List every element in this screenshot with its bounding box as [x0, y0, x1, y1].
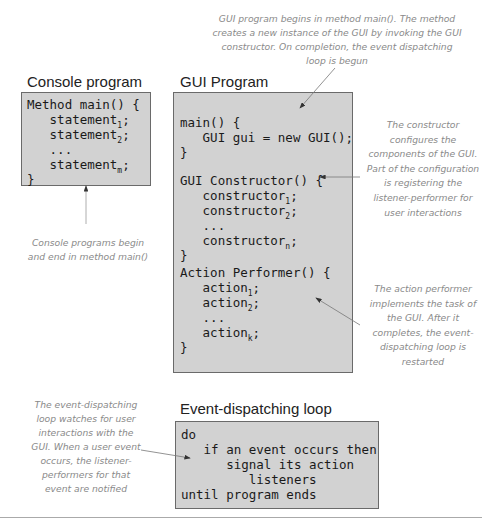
- event-loop-box: do if an event occurs then signal its ac…: [175, 421, 379, 509]
- console-program-title: Console program: [27, 73, 142, 90]
- code-line: constructor2;: [180, 203, 323, 218]
- code-line: statementm;: [27, 157, 140, 172]
- gui-main-code: main() { GUI gui = new GUI();}: [180, 115, 353, 160]
- bottom-divider: [0, 517, 482, 518]
- gui-performer-code: Action Performer() { action1; action2; .…: [180, 265, 331, 355]
- code-line: actionk;: [180, 325, 331, 340]
- gui-constructor-code: GUI Constructor() { constructor1; constr…: [180, 173, 323, 263]
- code-line: action2;: [180, 295, 331, 310]
- code-line: }: [180, 248, 323, 263]
- console-code: Method main() { statement1; statement2; …: [27, 97, 140, 187]
- gui-program-box: main() { GUI gui = new GUI();} GUI Const…: [173, 92, 353, 373]
- code-line: }: [27, 172, 140, 187]
- note-performer: The action performer implements the task…: [364, 282, 482, 370]
- code-line: signal its action: [181, 457, 377, 472]
- code-line: if an event occurs then: [181, 442, 377, 457]
- code-line: Method main() {: [27, 97, 140, 112]
- code-line: do: [181, 427, 377, 442]
- code-line: constructor1;: [180, 188, 323, 203]
- code-line: listeners: [181, 472, 377, 487]
- code-line: ...: [27, 142, 140, 157]
- note-gui-main: GUI program begins in method main(). The…: [212, 12, 462, 68]
- note-constructor: The constructor configures the component…: [364, 118, 482, 220]
- code-line: ...: [180, 218, 323, 233]
- console-program-box: Method main() { statement1; statement2; …: [21, 92, 151, 186]
- code-line: ...: [180, 310, 331, 325]
- code-line: constructorn;: [180, 233, 323, 248]
- code-line: statement2;: [27, 127, 140, 142]
- note-console: Console programs begin and end in method…: [24, 236, 152, 263]
- event-loop-code: do if an event occurs then signal its ac…: [181, 427, 377, 502]
- code-line: GUI Constructor() {: [180, 173, 323, 188]
- code-line: statement1;: [27, 112, 140, 127]
- code-line: Action Performer() {: [180, 265, 331, 280]
- code-line: action1;: [180, 280, 331, 295]
- code-line: }: [180, 340, 331, 355]
- note-event-loop: The event-dispatching loop watches for u…: [28, 398, 144, 496]
- event-loop-title: Event-dispatching loop: [180, 400, 332, 417]
- gui-program-title: GUI Program: [180, 73, 268, 90]
- code-line: }: [180, 145, 353, 160]
- code-line: main() {: [180, 115, 353, 130]
- code-line: until program ends: [181, 487, 377, 502]
- code-line: GUI gui = new GUI();: [180, 130, 353, 145]
